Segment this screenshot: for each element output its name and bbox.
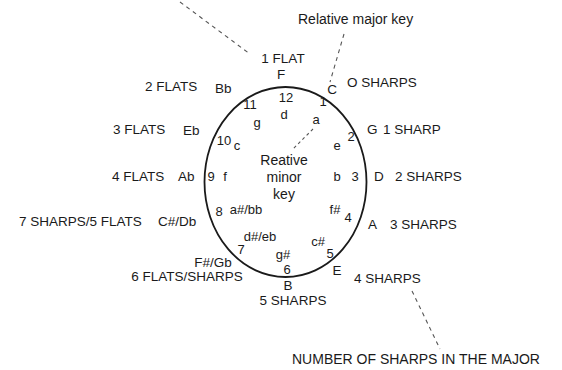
- signature-label-g: 1 SHARP: [383, 122, 441, 137]
- diagram-svg: Relative major key Reative minor key NUM…: [0, 0, 562, 370]
- signature-label-e-flat: 3 FLATS: [113, 122, 165, 137]
- major-key-d: D: [374, 169, 384, 184]
- position-number-12: 12: [279, 90, 293, 105]
- major-key-c-sharp-d-flat: C#/Db: [158, 214, 196, 229]
- leader-line-top-left: [180, 2, 250, 54]
- signature-label-c: O SHARPS: [347, 75, 417, 90]
- signature-label-a: 3 SHARPS: [390, 217, 457, 232]
- minor-key-f: f: [223, 169, 227, 184]
- position-number-6: 6: [283, 262, 290, 277]
- major-key-e: E: [332, 263, 341, 278]
- minor-key-a-sharp-b-flat: a#/bb: [230, 202, 263, 217]
- relative-minor-annotation-line3: key: [273, 186, 295, 202]
- major-key-b-flat: Bb: [215, 81, 232, 96]
- position-number-3: 3: [351, 169, 358, 184]
- minor-key-g: g: [253, 115, 260, 130]
- major-key-a: A: [368, 217, 377, 232]
- minor-key-d-sharp-e-flat: d#/eb: [244, 229, 277, 244]
- minor-key-g-sharp: g#: [276, 247, 291, 262]
- position-number-11: 11: [243, 97, 257, 112]
- signature-label-b-flat: 2 FLATS: [145, 79, 197, 94]
- major-key-a-flat: Ab: [178, 169, 195, 184]
- leader-line-relative-minor: [292, 129, 313, 150]
- position-number-10: 10: [217, 133, 231, 148]
- minor-key-e: e: [333, 138, 340, 153]
- circle-of-fifths-diagram: Relative major key Reative minor key NUM…: [0, 0, 562, 370]
- signature-label-a-flat: 4 FLATS: [112, 169, 164, 184]
- signature-label-f: 1 FLAT: [261, 51, 304, 66]
- signature-label-e: 4 SHARPS: [354, 271, 421, 286]
- signature-label-f-sharp-g-flat: 6 FLATS/SHARPS: [131, 269, 243, 284]
- signature-label-c-sharp-d-flat: 7 SHARPS/5 FLATS: [19, 214, 142, 229]
- position-number-4: 4: [344, 210, 351, 225]
- minor-key-a: a: [312, 112, 320, 127]
- position-number-5: 5: [326, 246, 333, 261]
- major-key-g: G: [367, 122, 378, 137]
- minor-key-d: d: [280, 107, 287, 122]
- major-key-f-sharp-g-flat: F#/Gb: [194, 255, 232, 270]
- major-key-f: F: [277, 67, 285, 82]
- position-number-1: 1: [319, 94, 326, 109]
- position-number-2: 2: [347, 129, 354, 144]
- position-number-7: 7: [237, 242, 244, 257]
- major-key-b: B: [283, 278, 292, 293]
- signature-label-d: 2 SHARPS: [395, 169, 462, 184]
- minor-key-c-sharp: c#: [311, 234, 326, 249]
- position-number-8: 8: [215, 204, 222, 219]
- minor-key-f-sharp: f#: [330, 202, 342, 217]
- leader-line-number-of-sharps: [412, 291, 440, 349]
- relative-major-annotation: Relative major key: [298, 11, 413, 27]
- signature-label-b: 5 SHARPS: [260, 293, 327, 308]
- minor-key-c: c: [234, 138, 241, 153]
- relative-minor-annotation-line1: Reative: [260, 152, 308, 168]
- relative-minor-annotation-line2: minor: [266, 169, 301, 185]
- leader-line-relative-major: [330, 34, 344, 82]
- major-key-c: C: [327, 82, 337, 97]
- number-of-sharps-annotation: NUMBER OF SHARPS IN THE MAJOR: [292, 351, 540, 367]
- position-number-9: 9: [207, 169, 214, 184]
- major-key-e-flat: Eb: [183, 123, 200, 138]
- minor-key-b: b: [333, 169, 340, 184]
